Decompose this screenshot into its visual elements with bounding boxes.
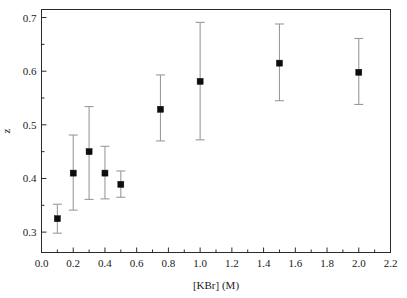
y-axis-title: z: [0, 128, 12, 133]
x-tick-label: 2.2: [384, 257, 398, 269]
y-tick-label: 0.6: [23, 65, 37, 77]
y-tick-label: 0.7: [23, 12, 37, 24]
x-tick-label: 0.2: [66, 257, 80, 269]
data-point-marker: [70, 170, 76, 176]
x-tick-label: 0.8: [162, 257, 176, 269]
x-tick-label: 1.0: [193, 257, 207, 269]
data-point-marker: [197, 78, 203, 84]
x-tick-label: 1.2: [225, 257, 239, 269]
figure-background: [0, 0, 407, 298]
x-tick-label: 0.4: [98, 257, 112, 269]
x-tick-label: 1.6: [288, 257, 302, 269]
x-tick-label: 1.8: [320, 257, 334, 269]
scatter-plot-canvas: 0.00.20.40.60.81.01.21.41.61.82.02.2 0.3…: [0, 0, 407, 298]
chart-figure: 0.00.20.40.60.81.01.21.41.61.82.02.2 0.3…: [0, 0, 407, 298]
x-tick-label: 0.0: [35, 257, 49, 269]
data-point-marker: [118, 181, 124, 187]
data-point-marker: [54, 216, 60, 222]
x-tick-label: 0.6: [130, 257, 144, 269]
y-tick-label: 0.4: [23, 172, 37, 184]
data-point-marker: [276, 60, 282, 66]
data-point-marker: [157, 106, 163, 112]
data-point-marker: [356, 69, 362, 75]
y-tick-label: 0.5: [23, 119, 37, 131]
x-tick-label: 1.4: [257, 257, 271, 269]
y-tick-label: 0.3: [23, 226, 37, 238]
data-point-marker: [86, 149, 92, 155]
data-point-marker: [102, 170, 108, 176]
x-axis-title: [KBr] (M): [193, 279, 239, 292]
x-tick-label: 2.0: [352, 257, 366, 269]
